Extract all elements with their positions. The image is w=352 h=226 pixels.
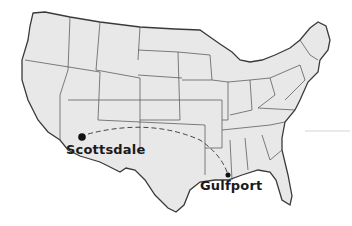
gulfport-label: Gulfport bbox=[200, 178, 263, 193]
scottsdale-marker-icon[interactable] bbox=[78, 133, 86, 141]
gulfport-marker-icon[interactable] bbox=[226, 173, 231, 178]
scottsdale-label: Scottsdale bbox=[66, 142, 146, 157]
us-outline-map bbox=[0, 0, 352, 226]
us-map: Scottsdale Gulfport bbox=[0, 0, 352, 226]
us-land bbox=[22, 12, 330, 212]
